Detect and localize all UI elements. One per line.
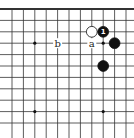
- star-point-icon: [102, 110, 105, 113]
- white-stone: [86, 26, 97, 37]
- black-stone: 1: [98, 26, 109, 37]
- black-stone: [98, 61, 109, 72]
- marker-label: b: [54, 38, 60, 49]
- move-number: 1: [101, 28, 106, 36]
- marker-b: b: [53, 38, 62, 49]
- board-grid: [0, 9, 134, 138]
- go-board: ba 1: [0, 0, 134, 138]
- star-point-icon: [33, 42, 36, 45]
- black-stone: [109, 38, 120, 49]
- star-point-icon: [102, 42, 105, 45]
- marker-a: a: [87, 38, 96, 49]
- star-point-icon: [33, 110, 36, 113]
- marker-label: a: [89, 38, 95, 49]
